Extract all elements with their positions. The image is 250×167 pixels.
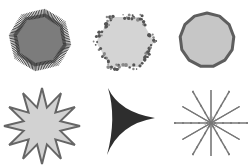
dashed-burst-shape xyxy=(174,90,248,156)
speckle xyxy=(150,46,152,48)
speckle xyxy=(95,44,97,46)
speckle xyxy=(147,34,149,36)
speckle xyxy=(104,57,106,59)
polygon-body xyxy=(180,13,234,66)
bristle xyxy=(43,10,44,17)
speckle xyxy=(110,68,112,70)
speckle xyxy=(144,24,147,27)
three-point-star-body xyxy=(107,88,155,155)
speckle xyxy=(144,57,146,59)
speckle xyxy=(122,14,124,16)
speckle xyxy=(132,63,135,66)
speckle xyxy=(101,35,103,37)
speckle xyxy=(133,17,135,19)
speckle xyxy=(128,14,131,17)
speckle xyxy=(139,18,142,21)
speckle xyxy=(97,30,101,34)
speckle xyxy=(118,64,120,66)
speckle xyxy=(123,17,126,20)
speckle xyxy=(106,65,110,69)
speckle xyxy=(121,63,125,67)
hairy-octagon-shape xyxy=(9,9,70,70)
speckle xyxy=(110,16,112,18)
speckle xyxy=(93,41,95,43)
speckle xyxy=(106,20,109,23)
speckle xyxy=(106,16,108,18)
outlined-polygon-shape xyxy=(180,13,234,66)
speckle xyxy=(138,64,141,67)
speckle xyxy=(101,55,104,58)
twelve-point-star-shape xyxy=(4,88,80,164)
speckle xyxy=(148,53,151,56)
speckle xyxy=(136,68,138,70)
speckle xyxy=(103,52,106,55)
speckle xyxy=(142,20,145,23)
speckle xyxy=(96,41,98,43)
speckle xyxy=(115,64,117,66)
speckle xyxy=(141,62,144,65)
bristle xyxy=(10,37,17,38)
speckle xyxy=(152,36,155,39)
speckle xyxy=(115,68,118,71)
speckle xyxy=(150,44,152,46)
speckle xyxy=(127,17,130,20)
speckle xyxy=(148,50,150,52)
bristle xyxy=(37,63,38,70)
speckle xyxy=(110,65,113,68)
speckle xyxy=(152,34,154,36)
bristle xyxy=(63,43,70,44)
speckled-hexagon-shape xyxy=(93,14,157,72)
speckle xyxy=(99,47,102,50)
speckle xyxy=(97,34,101,38)
star-body xyxy=(4,88,80,164)
speckle xyxy=(101,30,104,33)
speckle xyxy=(107,63,109,65)
speckle xyxy=(152,39,155,42)
speckle xyxy=(107,60,110,63)
speckle xyxy=(141,14,144,17)
speckle xyxy=(129,66,131,68)
speckle xyxy=(132,68,134,70)
three-point-star-shape xyxy=(107,88,155,155)
speckle xyxy=(108,24,110,26)
speckle xyxy=(105,22,109,26)
shapes-canvas xyxy=(0,0,250,167)
speckle xyxy=(146,56,148,58)
